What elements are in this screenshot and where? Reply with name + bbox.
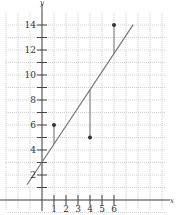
data-points	[52, 23, 116, 144]
x-tick-label: 4	[87, 204, 93, 214]
x-tick-label: 1	[51, 204, 57, 214]
data-point	[112, 23, 116, 27]
y-tick-label: 14	[25, 20, 37, 30]
x-tick-label: 5	[99, 204, 105, 214]
y-tick-label: 10	[25, 70, 37, 80]
y-tick-label: 4	[30, 145, 36, 155]
x-tick-label: 6	[111, 204, 117, 214]
grid	[6, 13, 166, 213]
scatter-chart: xy1234562468101214	[0, 0, 176, 215]
x-axis-label: x	[170, 197, 174, 205]
y-tick-label: 2	[30, 170, 36, 180]
x-tick-label: 2	[63, 204, 69, 214]
y-tick-label: 8	[30, 95, 36, 105]
y-axis-label: y	[39, 0, 45, 7]
regression-line	[27, 25, 133, 185]
axes	[0, 4, 170, 211]
x-tick-label: 3	[75, 204, 81, 214]
tick-labels: xy1234562468101214	[25, 0, 174, 214]
y-tick-label: 12	[25, 45, 36, 55]
data-point	[52, 123, 56, 127]
fit-line	[27, 25, 133, 185]
data-point	[88, 136, 92, 140]
y-tick-label: 6	[30, 120, 36, 130]
